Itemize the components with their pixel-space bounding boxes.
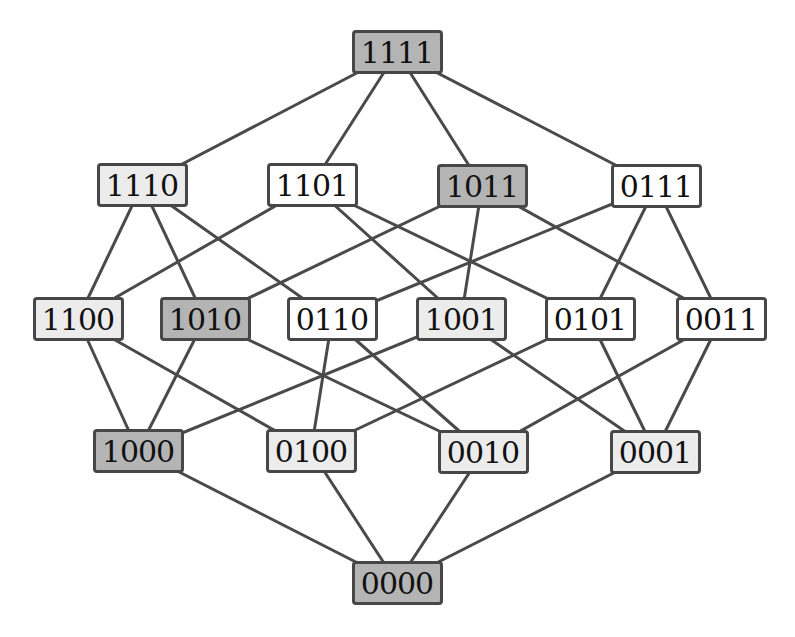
node-0101: 0101 [545,297,636,341]
node-1011: 1011 [437,164,528,208]
node-0001: 0001 [610,430,701,474]
node-1100: 1100 [33,297,124,341]
node-0100: 0100 [266,429,357,473]
node-0010: 0010 [438,430,529,474]
node-0111: 0111 [611,164,702,208]
node-0011: 0011 [676,297,767,341]
node-1001: 1001 [416,297,507,341]
node-1000: 1000 [93,429,184,473]
node-1101: 1101 [267,163,358,207]
node-1110: 1110 [97,163,188,207]
node-1111: 1111 [352,30,443,74]
node-0110: 0110 [287,297,378,341]
node-1010: 1010 [160,297,251,341]
hasse-diagram: 1111 1110 1101 1011 0111 1100 1010 0110 … [0,0,795,637]
node-0000: 0000 [352,561,443,605]
